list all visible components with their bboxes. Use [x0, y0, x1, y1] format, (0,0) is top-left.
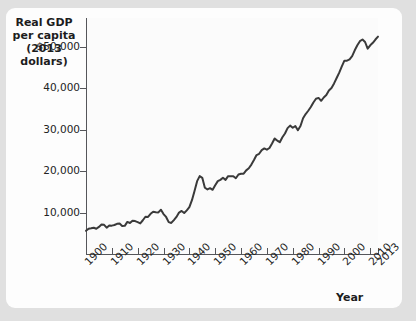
y-tick — [80, 171, 87, 172]
plot-area — [86, 18, 378, 254]
y-tick-labels: 10,00020,00030,00040,000$50,000 — [0, 0, 80, 300]
y-tick-label: $50,000 — [6, 40, 80, 52]
x-axis-title: Year — [336, 291, 363, 304]
y-tick-label: 30,000 — [6, 123, 80, 135]
y-axis-line — [86, 18, 87, 255]
y-tick — [80, 47, 87, 48]
y-tick — [80, 130, 87, 131]
y-tick-label: 20,000 — [6, 164, 80, 176]
y-tick — [80, 213, 87, 214]
y-tick — [80, 88, 87, 89]
chart-figure: Real GDP per capita (2013 dollars) 10,00… — [0, 0, 416, 321]
y-tick-label: 10,000 — [6, 206, 80, 218]
y-tick-label: 40,000 — [6, 81, 80, 93]
